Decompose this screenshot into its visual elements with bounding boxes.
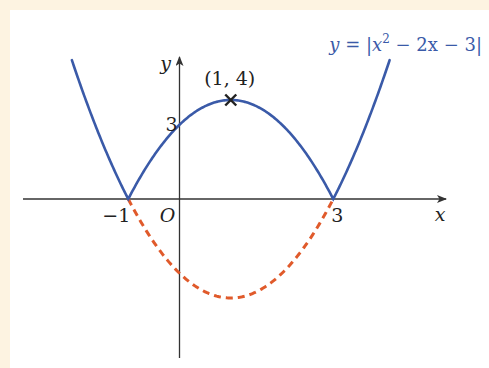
equation-label: y = |x2 − 2x − 3| — [328, 32, 482, 56]
y-axis-label: y — [159, 52, 171, 74]
vertex-label: (1, 4) — [204, 67, 255, 89]
x-axis-label: x — [435, 203, 446, 225]
equation-prefix: y = | — [328, 34, 372, 56]
equation-var: x — [372, 34, 382, 55]
equation-exponent: 2 — [382, 32, 390, 46]
function-graph: (1, 4) y x O −1 3 3 y = |x2 − 2x − 3| — [0, 0, 489, 368]
origin-label: O — [160, 204, 176, 226]
x-tick-label-neg1: −1 — [102, 204, 130, 226]
equation-suffix: − 2x − 3| — [390, 34, 482, 56]
y-tick-label-3: 3 — [165, 113, 177, 135]
x-tick-label-3: 3 — [331, 204, 343, 226]
